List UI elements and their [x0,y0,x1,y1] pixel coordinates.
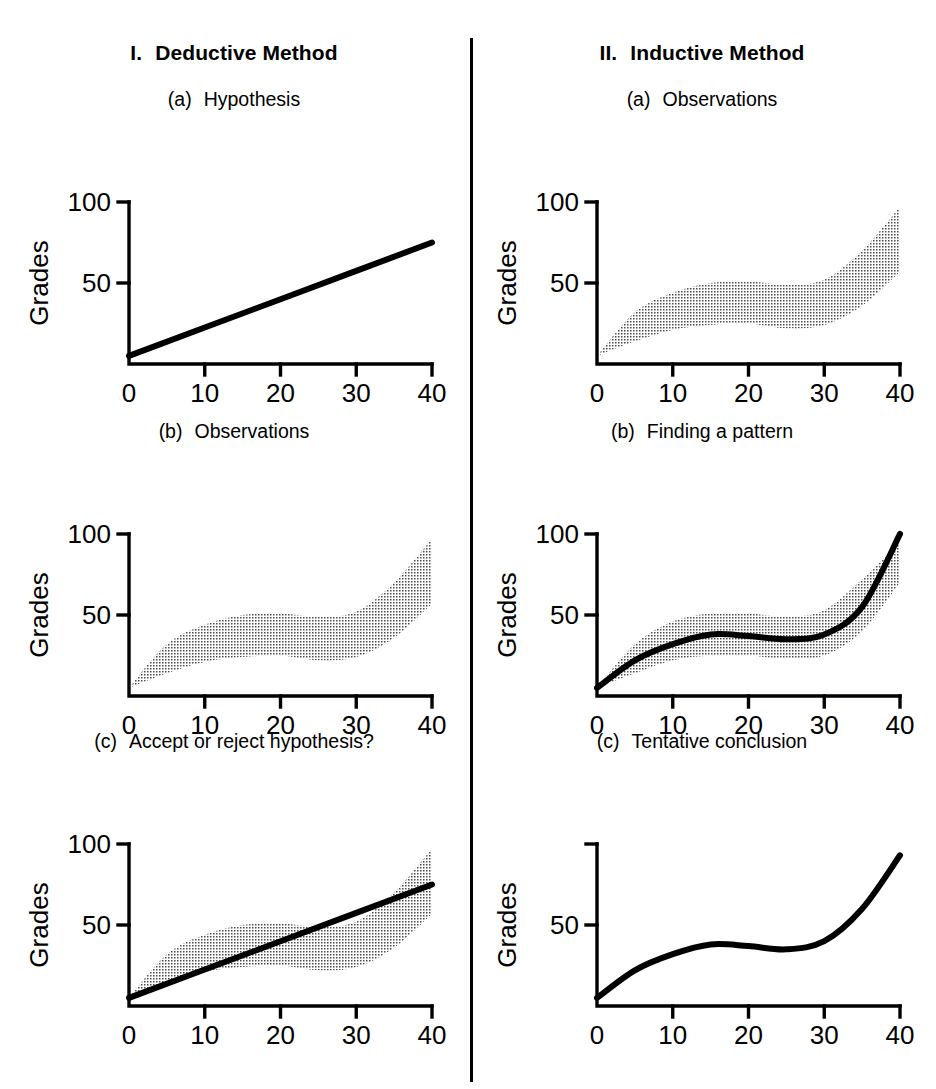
x-tick-label: 30 [342,1020,371,1050]
panel-tag: (c) [597,730,620,753]
x-tick-label: 30 [342,378,371,408]
x-tick-label: 10 [190,1020,219,1050]
x-tick-label: 0 [122,378,136,408]
panel-title: (a)Observations [468,88,936,111]
panel-title-text: Observations [194,420,309,442]
panel-tag: (c) [94,730,117,753]
panel-title-text: Accept or reject hypothesis? [129,730,374,752]
panel-tag: (a) [627,88,651,111]
column-numeral: II. [599,41,617,65]
chart-Ia: 50100010203040Hours studyingGrades [0,126,468,408]
y-axis-title: Grades [492,882,522,967]
x-tick-label: 40 [886,1020,915,1050]
panel-title: (a)Hypothesis [0,88,468,111]
y-tick-label: 100 [68,829,111,859]
x-tick-label: 0 [122,1020,136,1050]
scientific-method-figure: I.Deductive Method II.Inductive Method (… [0,0,936,1089]
panel-title: (b)Finding a pattern [468,420,936,443]
y-axis-title: Grades [492,572,522,657]
x-tick-label: 20 [734,378,763,408]
chart-IIb: 50100010203040Hours studyingGrades [468,458,936,740]
x-tick-label: 20 [734,1020,763,1050]
panel-tag: (a) [168,88,192,111]
axes [118,202,432,375]
x-tick-label: 0 [590,1020,604,1050]
plot-area-Ic: 50100010203040Hours studyingGrades [0,768,468,1050]
y-tick-label: 50 [550,600,579,630]
y-tick-label: 50 [82,268,111,298]
panel-deductive-hypothesis: (a)Hypothesis 50100010203040Hours studyi… [0,88,468,408]
panel-title-text: Hypothesis [204,88,300,110]
column-header-deductive: I.Deductive Method [0,41,468,65]
chart-Ib: 50100010203040Hours studyingGrades [0,458,468,740]
y-tick-label: 50 [550,268,579,298]
panel-inductive-tentative-conclusion: (c)Tentative conclusion 50010203040Hours… [468,730,936,1050]
y-tick-label: 50 [550,910,579,940]
panel-tag: (b) [159,420,183,443]
column-numeral: I. [130,41,142,65]
y-tick-label: 100 [536,187,579,217]
panel-title-text: Tentative conclusion [632,730,808,752]
y-axis-title: Grades [24,572,54,657]
panel-tag: (b) [611,420,635,443]
panel-inductive-finding-pattern: (b)Finding a pattern 50100010203040Hours… [468,420,936,740]
plot-area-Ib: 50100010203040Hours studyingGrades [0,458,468,740]
plot-area-IIc: 50010203040Hours studyingGrades [468,768,936,1050]
panel-title: (c)Accept or reject hypothesis? [0,730,468,753]
observation-band [129,849,432,998]
panel-deductive-observations: (b)Observations 50100010203040Hours stud… [0,420,468,740]
column-title: Inductive Method [630,41,804,64]
hypothesis-line [129,243,432,356]
y-axis-title: Grades [24,882,54,967]
y-axis-title: Grades [24,240,54,325]
y-tick-label: 50 [82,910,111,940]
plot-area-Ia: 50100010203040Hours studyingGrades [0,126,468,408]
x-tick-label: 0 [590,378,604,408]
chart-IIc: 50010203040Hours studyingGrades [468,768,936,1050]
y-tick-label: 100 [68,519,111,549]
column-title: Deductive Method [155,41,337,64]
x-tick-label: 20 [266,378,295,408]
panel-title: (c)Tentative conclusion [468,730,936,753]
chart-IIa: 50100010203040Hours studyingGrades [468,126,936,408]
panel-title-text: Observations [662,88,777,110]
y-tick-label: 100 [68,187,111,217]
plot-area-IIa: 50100010203040Hours studyingGrades [468,126,936,408]
x-tick-label: 40 [418,1020,447,1050]
y-tick-label: 100 [536,519,579,549]
observation-band [129,539,432,688]
x-tick-label: 30 [810,378,839,408]
panel-deductive-accept-reject: (c)Accept or reject hypothesis? 50100010… [0,730,468,1050]
x-tick-label: 10 [658,1020,687,1050]
plot-area-IIb: 50100010203040Hours studyingGrades [468,458,936,740]
y-axis-title: Grades [492,240,522,325]
x-tick-label: 10 [190,378,219,408]
x-tick-label: 20 [266,1020,295,1050]
panel-title: (b)Observations [0,420,468,443]
x-tick-label: 40 [886,378,915,408]
y-tick-label: 50 [82,600,111,630]
axes [586,844,900,1017]
conclusion-curve [597,855,900,998]
chart-Ic: 50100010203040Hours studyingGrades [0,768,468,1050]
panel-title-text: Finding a pattern [647,420,793,442]
observation-band [597,207,900,356]
x-tick-label: 40 [418,378,447,408]
panel-inductive-observations: (a)Observations 50100010203040Hours stud… [468,88,936,408]
x-tick-label: 10 [658,378,687,408]
x-tick-label: 30 [810,1020,839,1050]
column-header-inductive: II.Inductive Method [468,41,936,65]
